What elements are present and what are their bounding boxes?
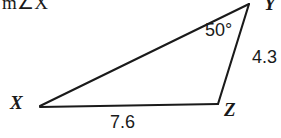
- triangle-diagram: [0, 0, 281, 138]
- vertex-label-z: Z: [224, 100, 236, 119]
- side-length-yz: 4.3: [252, 48, 277, 66]
- side-xz-line: [40, 104, 218, 107]
- angle-measure-y: 50°: [205, 21, 232, 39]
- side-length-xz: 7.6: [110, 113, 135, 131]
- angle-measure-prompt: m∠X: [2, 0, 48, 12]
- side-yz-line: [218, 4, 249, 104]
- geometry-figure-page: m∠X X Y Z 50° 4.3 7.6: [0, 0, 281, 138]
- vertex-label-x: X: [10, 93, 23, 112]
- vertex-label-y: Y: [264, 0, 276, 13]
